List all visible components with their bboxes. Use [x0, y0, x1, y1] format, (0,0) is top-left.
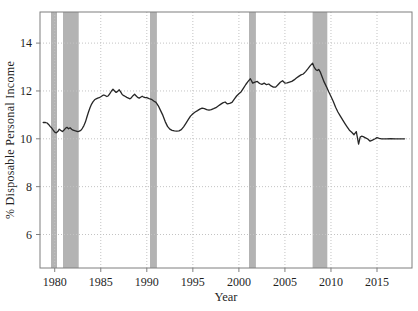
x-tick-label: 2015 — [365, 275, 389, 289]
chart-canvas: 1980198519901995200020052010201568101214 — [0, 0, 418, 311]
x-axis-label: Year — [214, 290, 237, 305]
recession-band — [249, 12, 256, 268]
recession-band — [150, 12, 157, 268]
y-tick-label: 12 — [20, 84, 32, 98]
recession-band — [63, 12, 79, 268]
x-tick-label: 1990 — [135, 275, 159, 289]
chart-figure: 1980198519901995200020052010201568101214… — [0, 0, 418, 311]
x-tick-label: 1980 — [43, 275, 67, 289]
data-line — [43, 63, 404, 144]
x-tick-label: 2010 — [319, 275, 343, 289]
x-tick-label: 1985 — [89, 275, 113, 289]
recession-band — [313, 12, 328, 268]
x-tick-label: 2005 — [273, 275, 297, 289]
y-tick-label: 10 — [20, 132, 32, 146]
recession-band — [51, 12, 57, 268]
y-axis-label: % Disposable Personal Income — [3, 61, 18, 219]
y-tick-label: 8 — [26, 180, 32, 194]
x-tick-label: 2000 — [227, 275, 251, 289]
y-tick-label: 6 — [26, 228, 32, 242]
y-tick-label: 14 — [20, 36, 32, 50]
x-tick-label: 1995 — [181, 275, 205, 289]
plot-frame — [40, 12, 412, 268]
